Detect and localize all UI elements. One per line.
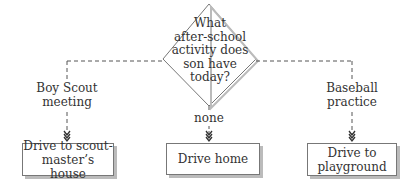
action-box-home: Drive home — [166, 143, 260, 175]
decision-line: today? — [170, 71, 250, 85]
action-box-playground: Drive to playground — [307, 143, 397, 176]
branch-label-boy-scout: Boy Scout meeting — [27, 81, 107, 109]
decision-line: What — [170, 17, 250, 31]
decision-line: activity does — [170, 44, 250, 58]
branch-label-baseball: Baseball practice — [312, 81, 392, 109]
decision-line: after-school — [170, 31, 250, 45]
decision-line: son have — [170, 58, 250, 72]
action-box-scoutmaster: Drive to scout- master’s house — [22, 143, 114, 176]
branch-label-none: none — [190, 111, 228, 125]
decision-text: What after-school activity does son have… — [170, 17, 250, 85]
